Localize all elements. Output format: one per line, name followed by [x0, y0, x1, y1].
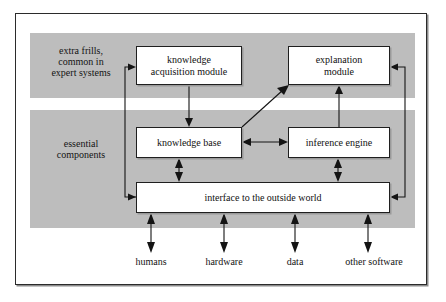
caption-extra-frills-line2: common in — [34, 56, 128, 67]
node-inference-engine-label: inference engine — [306, 137, 372, 148]
node-kam-line2: acquisition module — [151, 66, 227, 77]
caption-extra-frills-line1: extra frills, — [34, 45, 128, 56]
node-interface-to-the-outside-world[interactable]: interface to the outside world — [136, 182, 390, 213]
external-label-other-software: other software — [326, 256, 422, 267]
node-knowledge-acquisition-module[interactable]: knowledge acquisition module — [136, 46, 242, 85]
node-kam-line1: knowledge — [151, 54, 227, 65]
node-explanation-line2: module — [316, 66, 363, 77]
caption-essential-line1: essential — [34, 138, 128, 149]
caption-extra-frills: extra frills, common in expert systems — [34, 45, 128, 79]
node-explanation-line1: explanation — [316, 54, 363, 65]
external-label-data: data — [268, 256, 322, 267]
node-explanation-module[interactable]: explanation module — [288, 46, 390, 85]
external-label-humans: humans — [116, 256, 186, 267]
caption-extra-frills-line3: expert systems — [34, 67, 128, 78]
external-label-hardware: hardware — [186, 256, 262, 267]
diagram-canvas: extra frills, common in expert systems e… — [0, 0, 446, 302]
node-knowledge-base-label: knowledge base — [157, 137, 221, 148]
node-interface-label: interface to the outside world — [204, 192, 321, 203]
node-knowledge-base[interactable]: knowledge base — [136, 127, 242, 158]
caption-essential-components: essential components — [34, 138, 128, 160]
node-inference-engine[interactable]: inference engine — [288, 127, 390, 158]
caption-essential-line2: components — [34, 149, 128, 160]
